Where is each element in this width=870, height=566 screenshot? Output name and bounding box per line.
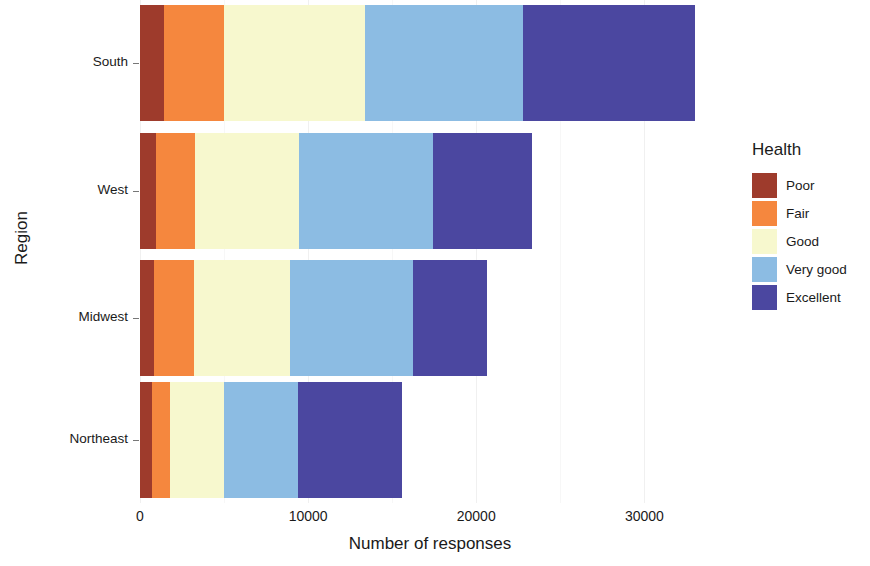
x-tick-label-10000: 10000: [289, 508, 328, 524]
bar-segment-excellent: [413, 260, 487, 376]
bar-segment-fair: [156, 133, 196, 249]
bar-segment-poor: [140, 382, 152, 498]
x-tick-label-30000: 30000: [625, 508, 664, 524]
bar-midwest: [140, 260, 487, 376]
bar-segment-good: [170, 382, 224, 498]
x-axis-title: Number of responses: [140, 534, 720, 554]
legend-item-poor[interactable]: Poor: [752, 171, 864, 199]
bar-segment-good: [194, 260, 290, 376]
bar-segment-poor: [140, 260, 154, 376]
legend-label: Poor: [786, 178, 815, 193]
y-tick-mark: [133, 63, 139, 64]
chart-figure: Region SouthWestMidwestNortheast 0100002…: [0, 0, 870, 566]
plot-panel: [140, 0, 720, 503]
y-tick-label-south: South: [8, 54, 128, 69]
legend-label: Good: [786, 234, 819, 249]
bar-segment-excellent: [298, 382, 402, 498]
legend-swatch-fair: [752, 201, 777, 226]
y-tick-label-northeast: Northeast: [8, 431, 128, 446]
y-tick-label-west: West: [8, 182, 128, 197]
bar-west: [140, 133, 532, 249]
bar-segment-fair: [164, 5, 225, 121]
bar-segment-excellent: [523, 5, 694, 121]
legend-swatch-good: [752, 229, 777, 254]
legend-label: Very good: [786, 262, 847, 277]
x-tick-label-0: 0: [136, 508, 144, 524]
legend-label: Fair: [786, 206, 809, 221]
legend-items: PoorFairGoodVery goodExcellent: [752, 171, 864, 311]
y-tick-mark: [133, 191, 139, 192]
bar-segment-fair: [154, 260, 194, 376]
legend-item-good[interactable]: Good: [752, 227, 864, 255]
legend-item-excellent[interactable]: Excellent: [752, 283, 864, 311]
bar-segment-very-good: [299, 133, 433, 249]
bar-south: [140, 5, 695, 121]
bar-segment-good: [224, 5, 365, 121]
legend-item-fair[interactable]: Fair: [752, 199, 864, 227]
legend-label: Excellent: [786, 290, 841, 305]
legend-item-very-good[interactable]: Very good: [752, 255, 864, 283]
bar-segment-very-good: [290, 260, 414, 376]
legend-swatch-excellent: [752, 285, 777, 310]
y-tick-mark: [133, 318, 139, 319]
bar-segment-poor: [140, 5, 164, 121]
bar-northeast: [140, 382, 402, 498]
legend-swatch-very-good: [752, 257, 777, 282]
bar-segment-excellent: [433, 133, 531, 249]
x-tick-label-20000: 20000: [457, 508, 496, 524]
legend-title: Health: [752, 140, 864, 160]
y-tick-mark: [133, 440, 139, 441]
legend: Health PoorFairGoodVery goodExcellent: [752, 140, 864, 311]
bar-segment-poor: [140, 133, 156, 249]
bar-segment-fair: [152, 382, 170, 498]
legend-swatch-poor: [752, 173, 777, 198]
y-axis-tick-labels: SouthWestMidwestNortheast: [0, 0, 128, 503]
bar-segment-very-good: [365, 5, 523, 121]
bar-segment-very-good: [224, 382, 298, 498]
y-tick-label-midwest: Midwest: [8, 309, 128, 324]
bar-segment-good: [195, 133, 298, 249]
